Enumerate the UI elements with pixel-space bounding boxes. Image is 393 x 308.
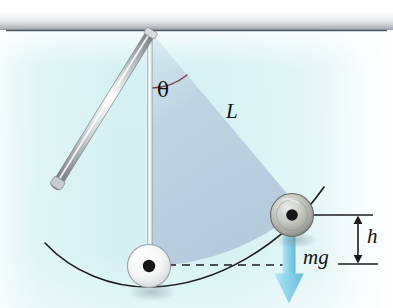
pendulum-bob-raised [271, 194, 314, 237]
weight-label: mg [303, 247, 329, 268]
length-label: L [226, 101, 238, 122]
diagram-canvas: θ L h mg [0, 0, 393, 308]
angle-label: θ [157, 80, 169, 100]
ceiling [0, 8, 393, 31]
pendulum-figure [0, 0, 393, 308]
height-label: h [367, 226, 378, 247]
pendulum-bob-lowest [128, 245, 171, 288]
ceiling-shadow [0, 8, 393, 30]
pendulum-string [146, 31, 154, 267]
